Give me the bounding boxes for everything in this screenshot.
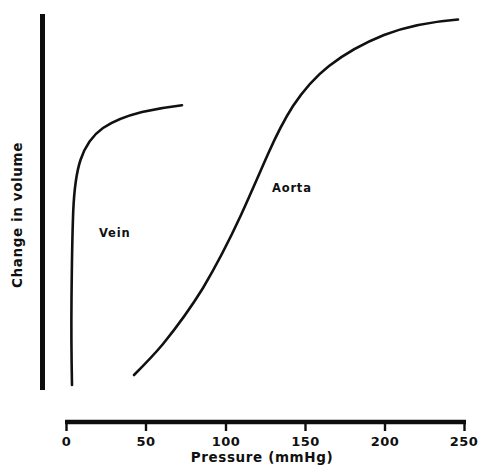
x-tick-label-200: 200 bbox=[371, 434, 399, 449]
y-axis-title: Change in volume bbox=[9, 142, 25, 288]
x-axis-title: Pressure (mmHg) bbox=[191, 449, 333, 465]
x-tick-label-50: 50 bbox=[137, 434, 156, 449]
vein-series-label: Vein bbox=[99, 226, 130, 240]
chart-canvas: 0 50 100 150 200 250 Pressure (mmHg) Cha… bbox=[0, 0, 483, 470]
x-tick-label-0: 0 bbox=[62, 434, 71, 449]
compliance-chart-figure: 0 50 100 150 200 250 Pressure (mmHg) Cha… bbox=[0, 0, 483, 470]
aorta-series-label: Aorta bbox=[272, 181, 312, 195]
x-tick-label-150: 150 bbox=[291, 434, 319, 449]
x-tick-label-250: 250 bbox=[450, 434, 478, 449]
x-tick-label-100: 100 bbox=[212, 434, 240, 449]
